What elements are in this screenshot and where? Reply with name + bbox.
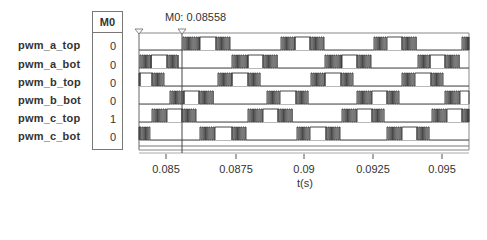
waveform-pwm-a-top	[139, 37, 469, 50]
x-tick-label: 0.085	[152, 163, 180, 175]
x-axis-ticks	[166, 154, 442, 159]
x-tick-label: 0.0925	[356, 163, 390, 175]
x-axis-label: t(s)	[297, 177, 313, 189]
waveform-pwm-c-bot	[139, 127, 469, 140]
waveform-pwm-b-top	[139, 73, 469, 86]
waveform-pwm-c-top	[139, 109, 469, 122]
x-tick-label: 0.095	[428, 163, 456, 175]
waveform-pwm-b-bot	[139, 91, 469, 104]
x-tick-label: 0.09	[293, 163, 314, 175]
waveform-pwm-a-bot	[139, 55, 469, 68]
waveform-traces	[139, 37, 469, 141]
x-tick-label: 0.0875	[219, 163, 253, 175]
